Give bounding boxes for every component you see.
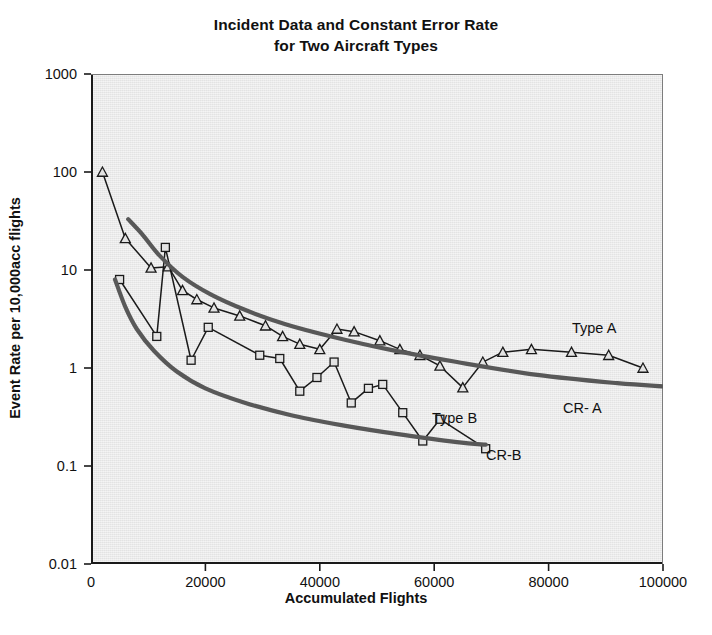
data-point-marker-square bbox=[256, 351, 264, 359]
y-tick-label: 1000 bbox=[7, 66, 77, 82]
series-label-type-a: Type A bbox=[572, 320, 616, 336]
series-line-cr-b bbox=[115, 279, 486, 444]
data-point-marker-square bbox=[276, 355, 284, 363]
series-label-cr-a: CR- A bbox=[563, 400, 602, 416]
data-point-marker-square bbox=[153, 332, 161, 340]
data-point-marker-triangle bbox=[435, 361, 445, 370]
data-point-marker-triangle bbox=[97, 167, 107, 176]
data-point-marker-square bbox=[313, 373, 321, 381]
x-axis-title: Accumulated Flights bbox=[0, 590, 712, 606]
x-tick-label: 20000 bbox=[150, 574, 260, 590]
x-tick-label: 80000 bbox=[494, 574, 604, 590]
data-point-marker-triangle bbox=[120, 233, 130, 242]
x-tick-label: 60000 bbox=[379, 574, 489, 590]
data-point-marker-triangle bbox=[278, 331, 288, 340]
data-point-marker-square bbox=[330, 358, 338, 366]
data-point-marker-square bbox=[364, 384, 372, 392]
data-point-marker-square bbox=[161, 243, 169, 251]
chart-figure: Incident Data and Constant Error Rate fo… bbox=[0, 0, 712, 635]
x-tick-label: 100000 bbox=[608, 574, 712, 590]
data-point-marker-square bbox=[399, 409, 407, 417]
data-point-marker-triangle bbox=[192, 295, 202, 304]
data-point-marker-triangle bbox=[375, 336, 385, 345]
data-point-marker-triangle bbox=[209, 303, 219, 312]
data-point-marker-triangle bbox=[332, 324, 342, 333]
x-tick-label: 0 bbox=[36, 574, 146, 590]
data-point-marker-triangle bbox=[178, 285, 188, 294]
data-point-marker-triangle bbox=[260, 321, 270, 330]
x-tick-label: 40000 bbox=[265, 574, 375, 590]
data-point-marker-square bbox=[187, 356, 195, 364]
data-point-marker-square bbox=[379, 380, 387, 388]
y-tick-label: 0.01 bbox=[7, 556, 77, 572]
series-label-cr-b: CR-B bbox=[486, 447, 521, 463]
data-point-marker-triangle bbox=[638, 363, 648, 372]
data-point-marker-square bbox=[204, 323, 212, 331]
data-point-marker-square bbox=[347, 399, 355, 407]
data-point-marker-square bbox=[296, 387, 304, 395]
series-label-type-b: Type B bbox=[432, 410, 477, 426]
data-point-marker-triangle bbox=[295, 339, 305, 348]
chart-svg-layer bbox=[0, 0, 712, 635]
series-line-cr-a bbox=[128, 219, 663, 386]
y-axis-title: Event Rate per 10,000acc flights bbox=[7, 93, 23, 523]
